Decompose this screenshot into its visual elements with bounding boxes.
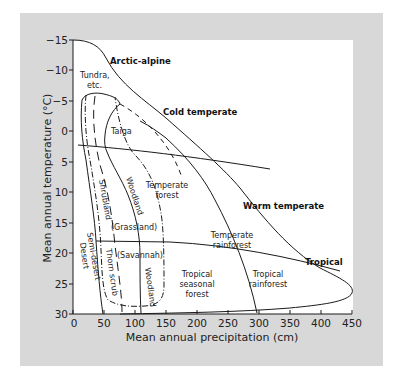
y-axis-label: Mean annual temperature (°C) <box>41 94 54 263</box>
label-tropical-seasonal-2: seasonal <box>179 280 214 289</box>
label-tropical-rainforest-2: rainforest <box>249 280 288 289</box>
svg-text:−10: −10 <box>46 64 68 76</box>
svg-text:20: 20 <box>55 247 68 259</box>
y-axis-ticks <box>69 40 73 314</box>
svg-text:350: 350 <box>280 317 300 329</box>
label-temperate-forest-2: forest <box>155 191 178 200</box>
label-cold-temperate: Cold temperate <box>163 107 238 117</box>
svg-text:200: 200 <box>187 317 207 329</box>
svg-text:5: 5 <box>61 156 68 168</box>
svg-text:10: 10 <box>55 186 68 198</box>
svg-text:0: 0 <box>71 317 78 329</box>
label-tundra: Tundra, <box>79 71 110 80</box>
svg-text:400: 400 <box>311 317 331 329</box>
svg-text:50: 50 <box>97 317 110 329</box>
svg-text:100: 100 <box>125 317 145 329</box>
label-arctic-alpine: Arctic-alpine <box>110 56 171 66</box>
svg-text:150: 150 <box>156 317 176 329</box>
label-temperate-forest: Temperate <box>145 181 189 190</box>
label-temperate-rainforest-2: rainforest <box>213 241 252 250</box>
svg-text:300: 300 <box>249 317 269 329</box>
svg-text:250: 250 <box>218 317 238 329</box>
svg-text:30: 30 <box>55 308 68 320</box>
svg-text:−15: −15 <box>46 34 68 46</box>
label-tropical-seasonal: Tropical <box>181 270 213 279</box>
label-savannah: (Savannah) <box>117 251 163 260</box>
label-grassland: (Grassland) <box>111 223 157 232</box>
label-tropical-rainforest: Tropical <box>252 270 284 279</box>
svg-text:15: 15 <box>55 217 68 229</box>
label-tundra-etc: etc. <box>87 81 102 90</box>
x-tick-labels: 0 50 100 150 200 250 300 350 400 450 <box>71 317 362 329</box>
label-taiga: Taiga <box>110 127 132 136</box>
svg-text:0: 0 <box>61 125 68 137</box>
label-temperate-rainforest: Temperate <box>210 231 254 240</box>
label-warm-temperate: Warm temperate <box>243 201 324 211</box>
label-tropical-seasonal-3: forest <box>185 290 208 299</box>
x-axis-label: Mean annual precipitation (cm) <box>126 331 299 344</box>
svg-text:−5: −5 <box>53 95 68 107</box>
svg-text:450: 450 <box>342 317 362 329</box>
label-tropical: Tropical <box>305 257 343 267</box>
biome-climate-diagram: −15 −10 −5 0 5 10 15 20 25 30 0 50 100 1… <box>0 0 396 379</box>
svg-text:25: 25 <box>55 278 68 290</box>
